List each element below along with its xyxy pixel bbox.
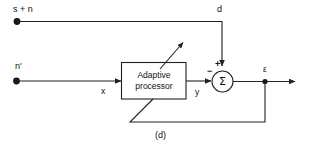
desired-signal-label: d bbox=[217, 5, 222, 14]
y-signal-label: y bbox=[195, 88, 199, 97]
figure-caption: (d) bbox=[155, 131, 166, 140]
summer-plus-sign: + bbox=[215, 60, 220, 69]
adaptive-processor-label: Adaptive processor bbox=[122, 63, 186, 99]
sigma-symbol: Σ bbox=[216, 75, 229, 88]
figure-root: s + n d n' x y + − ε Adaptive processor … bbox=[0, 0, 311, 153]
adaptive-processor-label-line2: processor bbox=[135, 81, 172, 92]
x-signal-label: x bbox=[101, 87, 105, 96]
reference-input-label: n' bbox=[15, 62, 22, 71]
primary-input-label: s + n bbox=[13, 5, 33, 14]
summer-minus-sign: − bbox=[207, 67, 212, 76]
adaptive-processor-label-line1: Adaptive bbox=[137, 70, 170, 81]
primary-input-path bbox=[17, 22, 222, 67]
error-signal-label: ε bbox=[263, 65, 267, 74]
